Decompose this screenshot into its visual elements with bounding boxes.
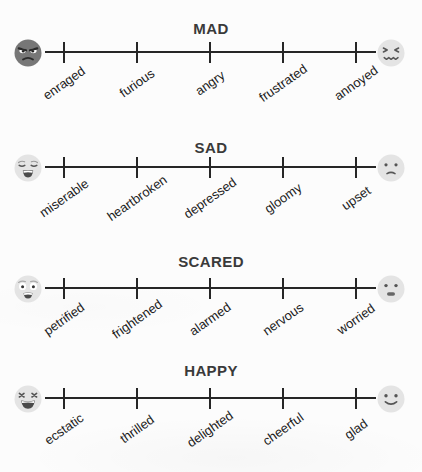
tick-mark	[63, 157, 65, 178]
scale-line	[45, 51, 376, 53]
tick-mark	[282, 278, 284, 299]
scale-label: depressed	[181, 174, 239, 221]
tick-mark	[209, 388, 211, 409]
scale-label: alarmed	[186, 299, 233, 338]
scale-label: enraged	[40, 63, 88, 103]
tick-mark	[63, 278, 65, 299]
scale-label: upset	[339, 183, 374, 214]
scale-title: MAD	[0, 20, 422, 37]
tick-mark	[209, 157, 211, 178]
laughing-face-icon	[13, 384, 43, 414]
tick-mark	[136, 157, 138, 178]
tick-mark	[282, 42, 284, 63]
scale-label: nervous	[260, 300, 306, 339]
scale-line	[45, 287, 376, 289]
scale-label: furious	[117, 66, 158, 101]
tick-mark	[209, 278, 211, 299]
tick-mark	[355, 278, 357, 299]
tick-mark	[136, 42, 138, 63]
scale-label: delighted	[184, 408, 236, 451]
happy-scale: HAPPY ecstatic thrilled delig	[0, 0, 422, 472]
smiling-face-icon	[376, 384, 406, 414]
tick-mark	[282, 157, 284, 178]
enraged-face-icon	[13, 38, 43, 68]
scared-scale: SCARED	[0, 0, 422, 472]
worried-face-icon	[376, 274, 406, 304]
emotion-scales-worksheet: MAD enrage	[0, 0, 422, 472]
scale-line	[45, 397, 376, 399]
mad-scale: MAD enrage	[0, 0, 422, 472]
annoyed-face-icon	[376, 38, 406, 68]
scale-label: ecstatic	[42, 410, 87, 448]
scale-title: SCARED	[0, 253, 422, 270]
tick-mark	[209, 42, 211, 63]
scale-line	[45, 166, 376, 168]
tick-mark	[63, 388, 65, 409]
scale-label: frightened	[109, 296, 165, 341]
tick-mark	[63, 42, 65, 63]
scale-label: miserable	[37, 176, 92, 221]
scale-label: annoyed	[331, 63, 380, 104]
tick-mark	[355, 42, 357, 63]
fearful-face-icon	[13, 274, 43, 304]
scale-title: HAPPY	[0, 362, 422, 379]
tick-mark	[282, 388, 284, 409]
scale-label: thrilled	[117, 412, 157, 446]
sad-scale: SAD miserable h	[0, 0, 422, 472]
scale-label: petrified	[41, 300, 87, 339]
scale-label: frustrated	[256, 61, 310, 105]
scale-label: angry	[192, 68, 227, 99]
scale-title: SAD	[0, 139, 422, 156]
scale-label: glad	[342, 416, 371, 442]
scale-label: gloomy	[262, 180, 305, 216]
slightly-frowning-face-icon	[376, 153, 406, 183]
scale-label: worried	[334, 301, 378, 338]
scale-label: heartbroken	[104, 172, 169, 224]
weary-crying-face-icon	[13, 153, 43, 183]
tick-mark	[136, 388, 138, 409]
tick-mark	[355, 388, 357, 409]
tick-mark	[136, 278, 138, 299]
scale-label: cheerful	[260, 410, 306, 449]
tick-mark	[355, 157, 357, 178]
